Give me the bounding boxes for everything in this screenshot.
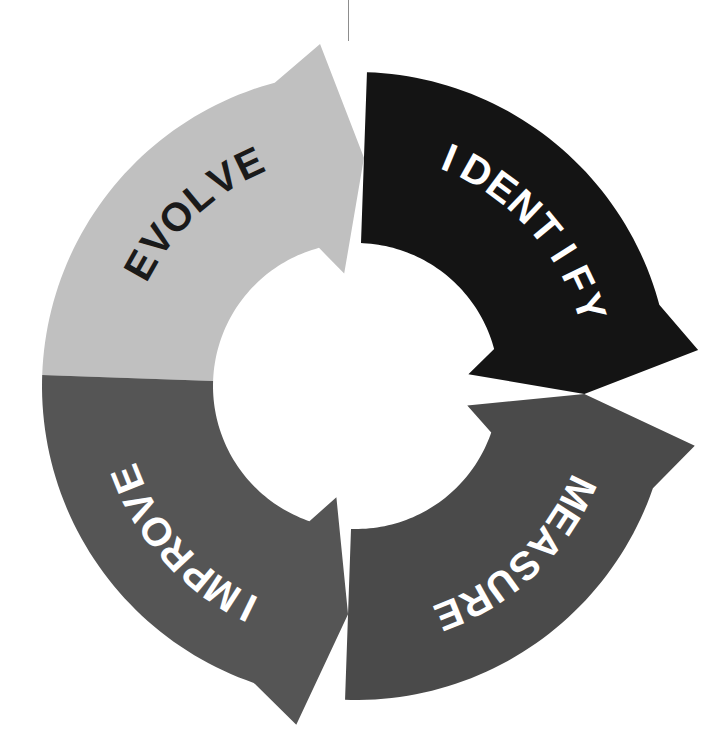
cycle-segments-group xyxy=(42,44,698,725)
diagram-canvas: EVOLVEIDENTIFYMEASUREIMPROVE xyxy=(0,0,712,740)
cycle-diagram: EVOLVEIDENTIFYMEASUREIMPROVE xyxy=(0,0,712,740)
